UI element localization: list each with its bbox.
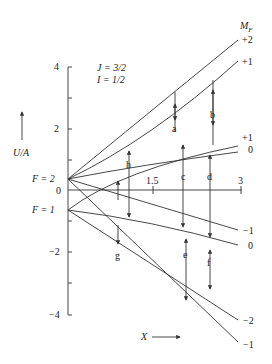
- transition-label-d: d: [207, 172, 212, 182]
- transition-label-a: a: [172, 124, 176, 134]
- level-f2-mf-2: [68, 179, 238, 342]
- transition-label-f: f: [207, 258, 210, 268]
- mf-label: +1: [242, 133, 253, 143]
- transition-label-h: h: [126, 160, 131, 170]
- transition-label-g: g: [115, 251, 120, 261]
- y-tick-neg2: −2: [49, 247, 60, 257]
- y-tick-4: 4: [54, 62, 59, 72]
- level-label-f2: F = 2: [32, 174, 55, 184]
- breit-rabi-diagram: J = 3/2 I = 1/2 4 2 0 −2 −4 U/A F = 2 F …: [0, 0, 272, 364]
- mf-label: 0: [248, 145, 253, 155]
- transition-label-e: e: [183, 250, 187, 260]
- param-j: J = 3/2: [97, 63, 126, 73]
- level-f1-mf0: [68, 210, 238, 245]
- mf-label: −2: [243, 316, 254, 326]
- y-axis-label: U/A: [13, 148, 29, 158]
- x-axis-label: X: [141, 332, 147, 342]
- transition-label-b: b: [210, 110, 215, 120]
- mf-header: MF: [240, 21, 253, 34]
- mf-label: +1: [242, 57, 253, 67]
- mf-label: −1: [243, 226, 254, 236]
- mf-label: −1: [243, 340, 254, 350]
- x-tick-3: 3: [238, 176, 243, 186]
- transition-label-c: c: [181, 172, 185, 182]
- level-f1-mf-1: [68, 210, 238, 320]
- y-tick-neg4: −4: [49, 310, 60, 320]
- level-f2-mf+1: [68, 61, 238, 179]
- level-label-f1: F = 1: [32, 205, 55, 215]
- y-tick-0: 0: [56, 186, 61, 196]
- mf-label: +2: [242, 35, 253, 45]
- param-i: I = 1/2: [97, 75, 125, 85]
- y-tick-2: 2: [54, 124, 59, 134]
- mf-label: 0: [248, 241, 253, 251]
- x-tick-1.5: 1.5: [146, 176, 159, 186]
